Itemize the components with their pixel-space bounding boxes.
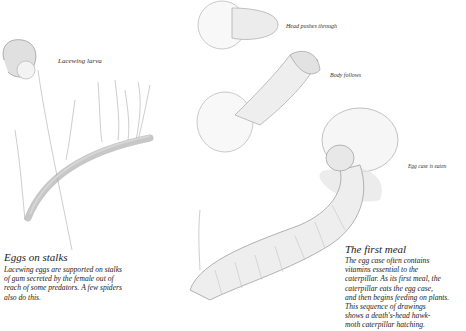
caption-line: The egg case often contains bbox=[345, 256, 465, 265]
label-egg-case-eaten: Egg case is eaten bbox=[408, 163, 446, 169]
caption-body: Lacewing eggs are supported on stalks of… bbox=[4, 265, 144, 302]
twig-illustration bbox=[28, 138, 150, 218]
caption-line: vitamins essential to the bbox=[345, 265, 465, 274]
lacewing-eggs-illustration bbox=[15, 70, 200, 270]
label-body-follows: Body follows bbox=[330, 72, 361, 78]
caption-line: This sequence of drawings bbox=[345, 302, 465, 311]
caption-title: The first meal bbox=[345, 243, 465, 255]
caption-first-meal: The first meal The egg case often contai… bbox=[345, 243, 465, 330]
caption-line: and then begins feeding on plants. bbox=[345, 293, 465, 302]
egg-body-follows-illustration bbox=[197, 51, 320, 152]
caption-line: caterpillar eats the egg case, bbox=[345, 284, 465, 293]
caption-line: also do this. bbox=[4, 293, 144, 302]
caption-body: The egg case often contains vitamins ess… bbox=[345, 256, 465, 330]
caption-line: of gum secreted by the female out of bbox=[4, 274, 144, 283]
egg-head-pushes-illustration bbox=[198, 1, 278, 49]
label-head-pushes: Head pushes through bbox=[286, 23, 337, 29]
caption-line: moth caterpillar hatching. bbox=[345, 320, 465, 329]
caption-line: shows a death's-head hawk- bbox=[345, 311, 465, 320]
lacewing-larva-illustration bbox=[3, 40, 36, 79]
label-lacewing-larva: Lacewing larva bbox=[58, 57, 102, 65]
caption-line: caterpillar. As its first meal, the bbox=[345, 274, 465, 283]
caption-line: Lacewing eggs are supported on stalks bbox=[4, 265, 144, 274]
caption-eggs-on-stalks: Eggs on stalks Lacewing eggs are support… bbox=[4, 251, 144, 302]
caption-title: Eggs on stalks bbox=[4, 251, 144, 263]
caption-line: reach of some predators. A few spiders bbox=[4, 283, 144, 292]
